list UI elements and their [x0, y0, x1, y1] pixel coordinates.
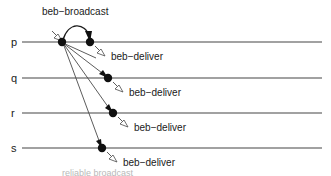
deliver-arrow-icon-q	[115, 85, 123, 92]
message-arrows-group	[63, 43, 113, 148]
bottom-caption-group: reliable broadcast	[62, 168, 134, 176]
message-arrow-p-to-s	[63, 43, 101, 146]
process-labels-group: p q r s	[11, 36, 17, 154]
deliver-label-p: beb−deliver	[111, 51, 164, 62]
deliver-indication-p	[95, 46, 105, 56]
event-dots-group	[58, 38, 117, 152]
process-label-s: s	[11, 142, 17, 154]
deliver-arrow-icon-s	[109, 155, 117, 162]
deliver-indication-r	[118, 117, 128, 127]
event-dot-deliver-s[interactable]	[98, 144, 106, 152]
deliver-indication-q	[113, 82, 123, 92]
deliver-label-s: beb−deliver	[123, 157, 176, 168]
bottom-caption: reliable broadcast	[62, 168, 134, 176]
process-label-q: q	[11, 72, 17, 84]
deliver-arrow-icon-r	[120, 120, 128, 127]
process-label-p: p	[11, 36, 17, 48]
event-dot-broadcast-origin[interactable]	[58, 38, 66, 46]
broadcast-label: beb−broadcast	[42, 6, 109, 17]
event-dot-deliver-q[interactable]	[104, 74, 112, 82]
event-labels-group: beb−broadcast beb−deliver beb−deliver be…	[42, 6, 187, 168]
process-label-r: r	[11, 107, 15, 119]
deliver-arrow-icon-p	[97, 49, 105, 56]
event-dot-deliver-p[interactable]	[86, 38, 94, 46]
deliver-label-r: beb−deliver	[134, 122, 187, 133]
deliver-label-q: beb−deliver	[129, 87, 182, 98]
event-dot-deliver-r[interactable]	[109, 109, 117, 117]
space-time-diagram: p q r s	[0, 0, 331, 176]
deliver-indication-s	[107, 152, 117, 162]
diagram-canvas: p q r s	[0, 0, 331, 176]
